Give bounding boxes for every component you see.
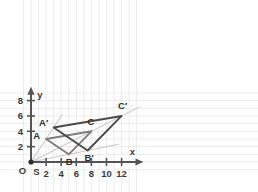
x-tick-label-10: 10: [101, 168, 112, 179]
coordinate-plane: 246810122468xyOSABCA′B′C′: [0, 0, 258, 192]
point-c-label: C: [87, 116, 94, 127]
center-point-s-marker: [28, 159, 33, 164]
origin-label: O: [19, 165, 26, 176]
x-axis-label: x: [130, 146, 136, 157]
x-tick-label-6: 6: [74, 168, 79, 179]
dilation-diagram: 246810122468xyOSABCA′B′C′: [0, 0, 258, 192]
point-a-prime-label: A′: [39, 117, 49, 128]
x-tick-label-4: 4: [59, 168, 65, 179]
point-c-prime-label: C′: [118, 100, 128, 111]
y-axis-label: y: [37, 89, 43, 100]
y-tick-label-4: 4: [18, 126, 24, 137]
x-tick-label-12: 12: [116, 168, 127, 179]
x-tick-label-8: 8: [89, 168, 94, 179]
y-tick-label-2: 2: [18, 141, 23, 152]
x-tick-label-2: 2: [43, 168, 48, 179]
center-label-s: S: [33, 166, 39, 177]
y-tick-label-6: 6: [18, 110, 23, 121]
y-tick-label-8: 8: [18, 95, 23, 106]
dilation-center-point: [28, 159, 33, 164]
point-a-label: A: [33, 130, 40, 141]
point-b-label: B: [66, 156, 73, 167]
point-b-prime-label: B′: [85, 152, 95, 163]
